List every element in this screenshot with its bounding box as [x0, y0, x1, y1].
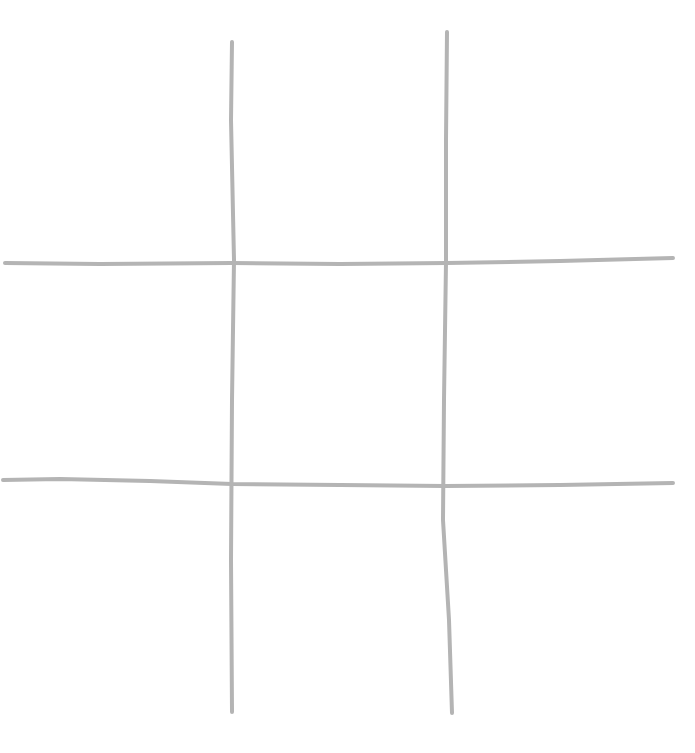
cell-mark	[235, 488, 445, 753]
cell-mark	[0, 484, 230, 753]
cell-r0-c1[interactable]	[235, 0, 445, 261]
cell-r0-c2[interactable]	[451, 0, 695, 258]
cell-mark	[449, 264, 695, 481]
vertical-grid-line-left	[231, 42, 234, 712]
cell-mark	[235, 266, 443, 482]
cell-r1-c0[interactable]	[0, 266, 230, 478]
cell-mark	[452, 487, 695, 753]
cell-mark	[235, 0, 445, 261]
cell-r2-c1[interactable]	[235, 488, 445, 753]
cell-mark	[0, 0, 230, 261]
tic-tac-toe-board	[0, 0, 695, 753]
cell-r1-c2[interactable]	[449, 264, 695, 481]
cell-r2-c0[interactable]	[0, 484, 230, 753]
cell-r0-c0[interactable]	[0, 0, 230, 261]
cell-mark	[0, 266, 230, 478]
cell-r1-c1[interactable]	[235, 266, 443, 482]
cell-mark	[451, 0, 695, 258]
cell-r2-c2[interactable]	[452, 487, 695, 753]
